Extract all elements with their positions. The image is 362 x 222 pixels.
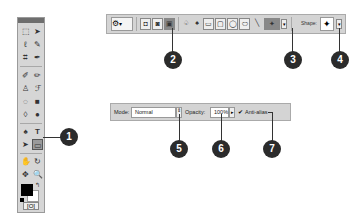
custom-shape-tool-icon[interactable]: ▭ — [32, 139, 43, 150]
blur-tool-icon[interactable]: ◊ — [20, 109, 31, 120]
mode-label: Mode: — [114, 109, 129, 115]
chevron-down-icon: ▾ — [119, 21, 122, 27]
shape-layers-mode-button[interactable]: ◘ — [140, 18, 151, 30]
polygon-tool-button[interactable]: ⬭ — [239, 18, 250, 30]
divider — [20, 153, 42, 154]
callout-7: 7 — [263, 140, 281, 158]
callout-4-leader — [339, 28, 340, 52]
opacity-slider-button[interactable]: ▸ — [229, 107, 235, 118]
zoom-tool-icon[interactable]: 🔍 — [32, 169, 43, 180]
healing-brush-tool-icon[interactable]: ✐ — [20, 70, 31, 81]
shape-options-bar: ⚙▾ ◘ ◙ ▣ ♤ ♠ ▭ ▢ ◯ ⬭ ╲ ✦ ▾ Shape: ✦ ▾ — [106, 14, 346, 34]
tool-preset-picker[interactable]: ⚙▾ — [111, 17, 133, 31]
callout-1-leader — [43, 137, 61, 138]
type-tool-icon[interactable]: T — [32, 126, 43, 137]
crop-tool-icon[interactable]: ⌗ — [20, 52, 31, 63]
ellipse-tool-button[interactable]: ◯ — [227, 18, 238, 30]
path-selection-tool-icon[interactable]: ➤ — [20, 139, 31, 150]
paths-mode-button[interactable]: ◙ — [152, 18, 163, 30]
clone-stamp-tool-icon[interactable]: ♙ — [20, 83, 31, 94]
antialias-label: Anti-alias — [245, 109, 268, 115]
callout-5-leader — [179, 114, 180, 142]
hand-tool-icon[interactable]: ✋ — [20, 156, 31, 167]
pen-tool-button[interactable]: ♤ — [181, 18, 191, 30]
opacity-label: Opacity: — [185, 109, 205, 115]
marquee-tool-icon[interactable]: ⬚ — [20, 26, 31, 37]
geometry-options-dropdown[interactable]: ▾ — [281, 19, 287, 29]
callout-6-leader — [221, 114, 222, 142]
custom-shape-tool-button[interactable]: ✦ — [264, 18, 280, 30]
pen-tool-icon[interactable]: ♠ — [20, 126, 31, 137]
callout-3: 3 — [284, 51, 302, 69]
fill-options-bar: Mode: Normal ⇕ Opacity: 100% ▸ ✔ Anti-al… — [110, 103, 291, 121]
shape-picker[interactable]: ✦ — [320, 17, 334, 31]
callout-3-leader — [292, 28, 293, 52]
history-brush-tool-icon[interactable]: ℱ — [32, 83, 43, 94]
rounded-rectangle-tool-button[interactable]: ▢ — [215, 18, 226, 30]
foreground-color-swatch[interactable] — [21, 184, 33, 196]
eyedropper-tool-icon[interactable]: ✒ — [32, 52, 43, 63]
tools-panel-titlebar[interactable] — [18, 18, 44, 23]
quick-mask-button[interactable]: [O] — [23, 202, 39, 210]
callout-2-leader — [172, 28, 173, 52]
callout-1: 1 — [60, 128, 78, 146]
fill-pixels-mode-button[interactable]: ▣ — [164, 18, 175, 30]
callout-4: 4 — [331, 51, 349, 69]
divider — [178, 17, 179, 31]
move-tool-icon[interactable]: ➤ — [32, 26, 43, 37]
brush-tool-icon[interactable]: ✏ — [32, 70, 43, 81]
opacity-field[interactable]: 100% — [210, 107, 229, 118]
divider — [20, 66, 42, 67]
rectangle-tool-button[interactable]: ▭ — [203, 18, 214, 30]
tools-panel: ⬚ ➤ ℓ ✎ ⌗ ✒ ✐ ✏ ♙ ℱ ◌ ■ ◊ ● ♠ T ➤ ▭ ✋ ↻ … — [17, 17, 45, 213]
callout-5: 5 — [170, 140, 188, 158]
rotate-view-tool-icon[interactable]: ↻ — [32, 156, 43, 167]
dodge-tool-icon[interactable]: ● — [32, 109, 43, 120]
swap-colors-icon[interactable]: ↰ — [35, 181, 40, 188]
divider — [20, 123, 42, 124]
gradient-tool-icon[interactable]: ■ — [32, 96, 43, 107]
callout-6: 6 — [212, 140, 230, 158]
3d-orbit-tool-icon[interactable]: ✥ — [20, 169, 31, 180]
callout-7-leader — [272, 112, 273, 142]
freeform-pen-button[interactable]: ♠ — [192, 18, 202, 30]
lasso-tool-icon[interactable]: ℓ — [20, 39, 31, 50]
divider — [136, 17, 137, 31]
magic-wand-tool-icon[interactable]: ✎ — [32, 39, 43, 50]
antialias-checkbox[interactable]: ✔ — [238, 108, 243, 115]
eraser-tool-icon[interactable]: ◌ — [20, 96, 31, 107]
preset-icon: ⚙ — [112, 19, 119, 28]
callout-2: 2 — [164, 51, 182, 69]
mode-select[interactable]: Normal — [131, 107, 176, 118]
line-tool-button[interactable]: ╲ — [251, 18, 262, 30]
shape-label: Shape: — [301, 20, 317, 26]
